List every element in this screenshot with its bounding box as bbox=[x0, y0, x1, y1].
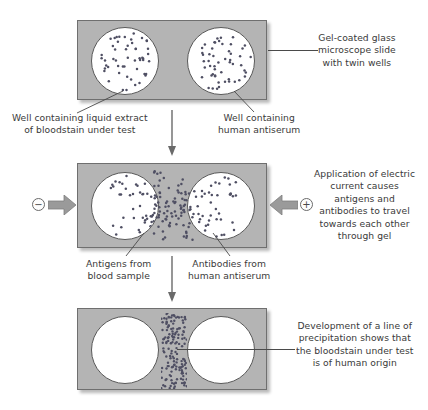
antigens-callout-line-2: blood sample bbox=[86, 270, 151, 282]
antigens-callout-line-1: Antigens from bbox=[86, 258, 151, 270]
leader-right-well-1 bbox=[233, 90, 255, 113]
leader-antigens bbox=[125, 232, 145, 257]
left-well-callout-line-2: of bloodstain under test bbox=[12, 124, 148, 136]
electric-current-callout-line-1: Application of electric bbox=[314, 168, 415, 180]
flow-arrow-1-to-2 bbox=[165, 110, 179, 156]
slide-1 bbox=[77, 20, 267, 100]
antibodies-callout: Antibodies fromhuman antiserum bbox=[188, 258, 270, 283]
slide-callout-line-2: microscope slide bbox=[318, 44, 396, 56]
panel-1-right-well bbox=[187, 27, 255, 95]
precipitation-line bbox=[161, 313, 187, 389]
precipitation-callout-line-4: is of human origin bbox=[296, 357, 414, 369]
panel-2-left-well bbox=[91, 172, 159, 240]
electric-current-callout-line-5: towards each other bbox=[314, 218, 415, 230]
leader-left-well-1 bbox=[76, 90, 124, 114]
precipitation-callout-line-3: the bloodstain under test bbox=[296, 345, 414, 357]
dot-field bbox=[92, 28, 159, 95]
electric-current-callout-line-2: current causes bbox=[314, 180, 415, 192]
left-well-callout: Well containing liquid extractof bloodst… bbox=[12, 112, 148, 137]
electric-current-callout: Application of electriccurrent causesant… bbox=[314, 168, 415, 242]
antibodies-callout-line-2: human antiserum bbox=[188, 270, 270, 282]
leader-antibodies bbox=[212, 232, 231, 257]
electric-current-callout-line-3: antigens and bbox=[314, 193, 415, 205]
right-well-callout-line-1: Well containing bbox=[218, 112, 300, 124]
panel-1-left-well bbox=[91, 27, 159, 95]
figure-canvas: Gel-coated glassmicroscope slidewith twi… bbox=[0, 0, 428, 410]
electrode-symbol: − bbox=[34, 199, 42, 210]
precipitation-callout-line-1: Development of a line of bbox=[296, 320, 414, 332]
negative-electrode: − bbox=[32, 198, 45, 211]
precipitation-callout: Development of a line ofprecipitation sh… bbox=[296, 320, 414, 370]
electric-current-callout-line-6: through gel bbox=[314, 230, 415, 242]
antibodies-callout-line-1: Antibodies from bbox=[188, 258, 270, 270]
antigens-callout: Antigens fromblood sample bbox=[86, 258, 151, 283]
panel-3-left-well bbox=[91, 316, 159, 384]
current-arrow-left bbox=[270, 195, 298, 215]
leader-slide bbox=[268, 50, 318, 51]
electric-current-callout-line-4: antibodies to travel bbox=[314, 205, 415, 217]
right-well-callout: Well containinghuman antiserum bbox=[218, 112, 300, 137]
slide-callout-line-3: with twin wells bbox=[318, 57, 396, 69]
electrode-symbol: + bbox=[302, 199, 310, 210]
slide-callout-line-1: Gel-coated glass bbox=[318, 32, 396, 44]
right-well-callout-line-2: human antiserum bbox=[218, 124, 300, 136]
positive-electrode: + bbox=[300, 198, 313, 211]
panel-2-right-well bbox=[187, 172, 255, 240]
precipitation-callout-line-2: precipitation shows that bbox=[296, 332, 414, 344]
slide-callout: Gel-coated glassmicroscope slidewith twi… bbox=[318, 32, 396, 69]
dot-field bbox=[188, 28, 255, 95]
slide-2 bbox=[77, 163, 267, 248]
dot-field bbox=[188, 173, 255, 240]
leader-precipitation bbox=[177, 349, 295, 350]
dot-field bbox=[92, 173, 159, 240]
panel-3-right-well bbox=[187, 316, 255, 384]
flow-arrow-2-to-3 bbox=[165, 256, 179, 302]
current-arrow-right bbox=[48, 195, 76, 215]
